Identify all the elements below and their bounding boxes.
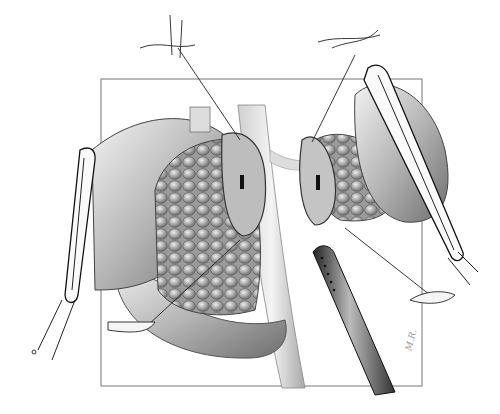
clamp-left [32, 148, 95, 360]
vessel-stub [190, 107, 210, 132]
drain-catheter [313, 246, 395, 395]
surgical-illustration [0, 0, 500, 414]
pancreatic-duct-right [316, 175, 320, 190]
pancreatic-duct-left [240, 175, 244, 189]
